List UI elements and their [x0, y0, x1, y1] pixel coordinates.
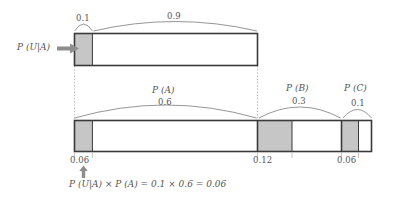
arc-0.1 — [75, 24, 93, 31]
caption-arrow-shaft — [82, 170, 85, 178]
probability-tree-bar-diagram: 0.1 0.9 P (U|A) P (A) 0.6 P (B) 0.3 P (C… — [0, 0, 395, 201]
bottom-bar-segment-A-shaded — [74, 120, 92, 152]
conditional-probability-label: P (U|A) — [17, 43, 50, 52]
bottom-bar-background — [74, 120, 372, 152]
bottom-value-A: 0.06 — [70, 156, 89, 165]
bottom-bar-segment-C-shaded — [342, 120, 359, 152]
top-bar-label-0.1: 0.1 — [76, 14, 90, 23]
top-bar-label-0.9: 0.9 — [167, 12, 181, 21]
top-bar-group — [74, 33, 258, 66]
diagram-graphics — [0, 0, 395, 201]
arc-PB — [259, 107, 341, 118]
caption-up-arrow — [79, 166, 87, 179]
segment-value-PB: 0.3 — [292, 97, 306, 106]
caption-formula: P (U|A) × P (A) = 0.1 × 0.6 = 0.06 — [69, 180, 226, 189]
arrow-shaft — [57, 47, 71, 51]
arc-0.9 — [94, 22, 258, 32]
top-bar-background — [74, 33, 258, 66]
arc-PC — [343, 110, 372, 119]
segment-label-PC: P (C) — [344, 84, 367, 93]
caption-arrow-head — [79, 166, 87, 172]
bottom-value-B: 0.12 — [253, 156, 272, 165]
segment-value-PC: 0.1 — [351, 99, 365, 108]
segment-value-PA: 0.6 — [158, 98, 172, 107]
bottom-bar-arcs — [75, 105, 372, 118]
top-bar-arcs — [75, 22, 258, 32]
bottom-bar-segment-B-shaded — [258, 120, 293, 152]
bottom-value-C: 0.06 — [337, 156, 356, 165]
segment-label-PA: P (A) — [152, 86, 174, 95]
segment-label-PB: P (B) — [286, 84, 309, 93]
bottom-bar-group — [74, 120, 372, 152]
bottom-tick-marks — [75, 152, 359, 158]
